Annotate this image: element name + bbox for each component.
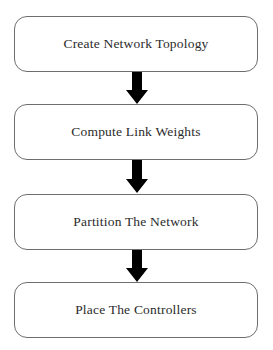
flow-node-compute-link-weights[interactable]: Compute Link Weights [14,104,258,160]
flow-node-label: Create Network Topology [63,37,208,52]
flowchart-canvas: Create Network Topology Compute Link Wei… [0,0,273,350]
arrow-down-icon [126,159,148,193]
flow-node-label: Place The Controllers [75,303,197,318]
flow-node-place-the-controllers[interactable]: Place The Controllers [14,282,258,338]
flow-node-create-network-topology[interactable]: Create Network Topology [14,16,258,72]
arrow-down-icon [126,248,148,282]
flow-node-label: Compute Link Weights [71,125,200,140]
flow-node-partition-the-network[interactable]: Partition The Network [14,194,258,250]
arrow-down-icon [126,70,148,104]
flow-node-label: Partition The Network [73,215,198,230]
